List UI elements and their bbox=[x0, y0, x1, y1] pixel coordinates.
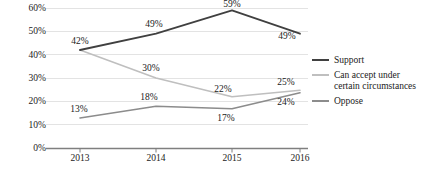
x-axis: 2013 2014 2015 2016 bbox=[46, 153, 308, 175]
legend-label-can-accept: Can accept undercertain circumstances bbox=[334, 70, 416, 93]
data-label-oppose-2016: 24% bbox=[271, 97, 301, 107]
y-tick-label: 40% bbox=[4, 50, 46, 60]
data-label-can-accept-2016: 25% bbox=[271, 77, 301, 87]
y-axis: 60% 50% 40% 30% 20% 10% 0% bbox=[0, 0, 46, 178]
data-label-support-2014: 49% bbox=[139, 19, 169, 29]
y-tick-label: 50% bbox=[4, 26, 46, 36]
data-label-oppose-2014: 18% bbox=[134, 92, 164, 102]
series-line-can-accept bbox=[80, 50, 300, 97]
data-label-support-2016: 49% bbox=[272, 31, 302, 41]
legend-line-icon-support bbox=[312, 59, 329, 69]
data-label-support-2015: 59% bbox=[217, 0, 247, 9]
data-label-support-2013: 42% bbox=[65, 36, 95, 46]
legend-label-oppose: Oppose bbox=[334, 96, 363, 108]
data-label-can-accept-2015: 22% bbox=[208, 84, 238, 94]
y-tick-label: 0% bbox=[4, 143, 46, 153]
line-chart: 60% 50% 40% 30% 20% 10% 0% bbox=[0, 0, 426, 178]
y-tick-label: 60% bbox=[4, 3, 46, 13]
y-tick-label: 20% bbox=[4, 96, 46, 106]
plot-area: 42% 49% 59% 49% 30% 22% 25% 13% 18% 17% … bbox=[46, 8, 308, 148]
legend-label-support: Support bbox=[334, 55, 364, 67]
data-label-oppose-2015: 17% bbox=[211, 113, 241, 123]
legend-line-icon-oppose bbox=[312, 100, 329, 110]
legend-label-can-accept-line1: Can accept under bbox=[334, 70, 400, 80]
legend-label-can-accept-line2: certain circumstances bbox=[334, 81, 416, 91]
series-line-oppose bbox=[80, 93, 300, 118]
x-tick-label-2015: 2015 bbox=[206, 153, 258, 164]
x-tick-label-2013: 2013 bbox=[54, 153, 106, 164]
series-line-support bbox=[80, 10, 300, 50]
y-tick-label: 10% bbox=[4, 120, 46, 130]
legend-item-oppose[interactable]: Oppose bbox=[312, 96, 426, 108]
data-label-oppose-2013: 13% bbox=[64, 104, 94, 114]
legend-line-icon-can-accept bbox=[312, 74, 329, 84]
legend-item-support[interactable]: Support bbox=[312, 55, 426, 67]
y-tick-label: 30% bbox=[4, 73, 46, 83]
x-tick-label-2014: 2014 bbox=[130, 153, 182, 164]
data-label-can-accept-2014: 30% bbox=[136, 63, 166, 73]
x-tick-label-2016: 2016 bbox=[274, 153, 326, 164]
legend: Support Can accept undercertain circumst… bbox=[312, 55, 426, 110]
legend-item-can-accept[interactable]: Can accept undercertain circumstances bbox=[312, 70, 426, 93]
